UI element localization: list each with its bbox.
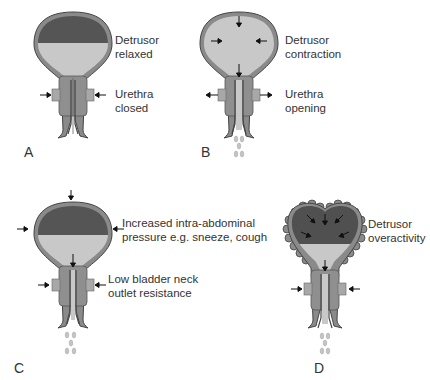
- label-line: closed: [115, 101, 153, 115]
- label-detrusor-contraction: Detrusor contraction: [285, 33, 341, 61]
- panel-letter-d: D: [314, 360, 324, 376]
- panel-letter-b: B: [201, 144, 210, 160]
- label-line: Increased intra-abdominal: [122, 216, 267, 230]
- label-line: Detrusor: [285, 33, 341, 47]
- panel-letter-c: C: [14, 360, 24, 376]
- panel-letter-a: A: [24, 144, 33, 160]
- label-line: pressure e.g. sneeze, cough: [122, 230, 267, 244]
- label-line: Detrusor: [115, 33, 159, 47]
- label-line: Low bladder neck: [108, 272, 198, 286]
- label-urethra-opening: Urethra opening: [285, 87, 326, 115]
- label-line: Urethra: [285, 87, 326, 101]
- panel-d: Detrusor overactivity D: [250, 190, 430, 380]
- label-line: contraction: [285, 47, 341, 61]
- label-line: outlet resistance: [108, 286, 198, 300]
- label-intra-abdominal-pressure: Increased intra-abdominal pressure e.g. …: [122, 216, 267, 244]
- label-urethra-closed: Urethra closed: [115, 87, 153, 115]
- urine-droplets-icon: [234, 136, 244, 157]
- label-line: overactivity: [368, 231, 426, 245]
- label-detrusor-relaxed: Detrusor relaxed: [115, 33, 159, 61]
- label-line: relaxed: [115, 47, 159, 61]
- label-line: Urethra: [115, 87, 153, 101]
- label-low-outlet-resistance: Low bladder neck outlet resistance: [108, 272, 198, 300]
- label-line: Detrusor: [368, 217, 426, 231]
- panel-b: Detrusor contraction Urethra opening B: [166, 0, 430, 190]
- urine-droplets-icon: [320, 333, 330, 354]
- label-detrusor-overactivity: Detrusor overactivity: [368, 217, 426, 245]
- urine-droplets-icon: [65, 332, 76, 354]
- label-line: opening: [285, 101, 326, 115]
